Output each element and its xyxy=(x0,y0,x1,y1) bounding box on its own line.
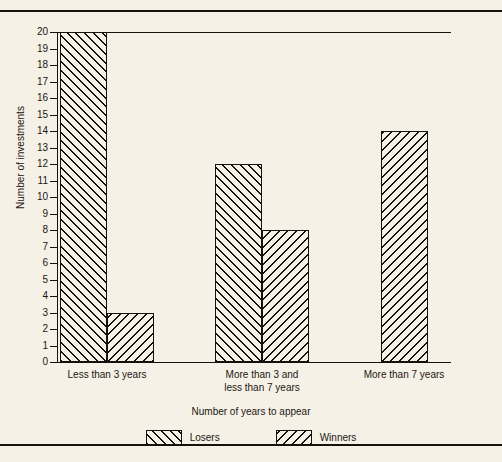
y-axis-tick-label: 13 xyxy=(4,143,48,153)
y-axis-tick-label: 6 xyxy=(4,258,48,268)
bar-winners-group-1 xyxy=(107,313,154,363)
y-axis-tick xyxy=(50,214,57,215)
x-axis-group-label: Less than 3 years xyxy=(27,368,187,381)
y-axis-tick-label: 18 xyxy=(4,60,48,70)
y-axis-tick-label: 7 xyxy=(4,242,48,252)
y-axis-tick xyxy=(50,181,57,182)
bar-winners-group-3 xyxy=(381,131,428,362)
y-axis-tick-label: 14 xyxy=(4,126,48,136)
bar-losers-group-2 xyxy=(215,164,262,362)
y-axis-tick xyxy=(50,65,57,66)
y-axis-tick xyxy=(50,263,57,264)
y-axis-tick-label: 11 xyxy=(4,176,48,186)
bar-winners-group-2 xyxy=(262,230,309,362)
y-axis-tick xyxy=(50,82,57,83)
bar-losers-group-1 xyxy=(60,32,107,362)
legend-label-winners: Winners xyxy=(320,432,357,443)
y-axis-tick xyxy=(50,247,57,248)
chart-page: Number of investments 012345678910111213… xyxy=(0,0,502,462)
legend-item-winners: Winners xyxy=(276,430,357,445)
bar-chart: Number of investments 012345678910111213… xyxy=(0,10,502,390)
chart-legend: Losers Winners xyxy=(0,430,502,445)
y-axis-tick xyxy=(50,148,57,149)
legend-label-losers: Losers xyxy=(190,432,220,443)
x-axis-group-label: More than 7 years xyxy=(324,368,484,381)
y-axis-tick xyxy=(50,49,57,50)
y-axis-tick-label: 2 xyxy=(4,324,48,334)
legend-swatch-winners-icon xyxy=(276,430,312,445)
y-axis-tick-label: 3 xyxy=(4,308,48,318)
y-axis-tick xyxy=(50,164,57,165)
x-axis-spine xyxy=(57,362,451,363)
y-axis-tick xyxy=(50,98,57,99)
x-axis-group-label: More than 3 and less than 7 years xyxy=(182,368,342,394)
y-axis-tick xyxy=(50,313,57,314)
y-axis-tick xyxy=(50,362,57,363)
y-axis-tick-label: 17 xyxy=(4,77,48,87)
y-axis-tick xyxy=(50,230,57,231)
plot-area xyxy=(57,32,450,362)
y-axis-tick-label: 12 xyxy=(4,159,48,169)
y-axis-tick-label: 16 xyxy=(4,93,48,103)
y-axis-tick xyxy=(50,197,57,198)
y-axis-tick xyxy=(50,115,57,116)
y-axis-tick-label: 9 xyxy=(4,209,48,219)
y-axis-tick xyxy=(50,346,57,347)
y-axis-tick xyxy=(50,32,57,33)
legend-swatch-losers-icon xyxy=(146,430,182,445)
y-axis-tick-label: 20 xyxy=(4,27,48,37)
y-axis-tick xyxy=(50,329,57,330)
y-axis-tick-label: 19 xyxy=(4,44,48,54)
x-axis-title: Number of years to appear xyxy=(0,406,502,417)
y-axis-tick-label: 8 xyxy=(4,225,48,235)
y-axis-tick-label: 0 xyxy=(4,357,48,367)
legend-item-losers: Losers xyxy=(146,430,220,445)
y-axis-tick-label: 5 xyxy=(4,275,48,285)
y-axis-tick-label: 10 xyxy=(4,192,48,202)
y-axis-tick-label: 4 xyxy=(4,291,48,301)
y-axis-tick xyxy=(50,296,57,297)
y-axis-tick-label: 15 xyxy=(4,110,48,120)
y-axis-tick-label: 1 xyxy=(4,341,48,351)
y-axis-tick xyxy=(50,280,57,281)
y-axis-tick xyxy=(50,131,57,132)
